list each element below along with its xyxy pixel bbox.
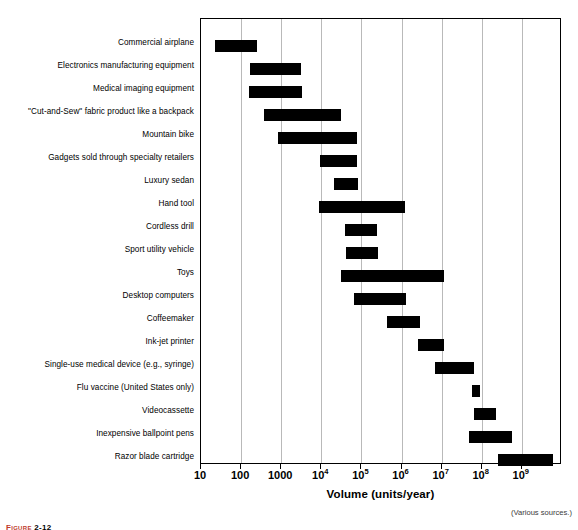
gridline xyxy=(241,19,242,463)
gridline xyxy=(321,19,322,463)
production-volume-range-chart: Commercial airplaneElectronics manufactu… xyxy=(0,0,578,530)
category-label: Mountain bike xyxy=(0,130,194,139)
category-label: Coffeemaker xyxy=(0,314,194,323)
x-tick-label: 109 xyxy=(513,469,529,482)
x-tick-label: 10 xyxy=(194,469,206,482)
category-label-column: Commercial airplaneElectronics manufactu… xyxy=(0,18,194,450)
x-tick-label: 1000 xyxy=(268,469,292,482)
gridline xyxy=(361,19,362,463)
category-label: Hand tool xyxy=(0,199,194,208)
figure-caption: Figure 2-12 xyxy=(6,523,51,530)
x-axis-title: Volume (units/year) xyxy=(200,488,561,500)
x-axis-tick-labels: 101001000104105106107108109 xyxy=(0,469,578,485)
figure-caption-number: 2-12 xyxy=(34,523,51,530)
range-bar xyxy=(435,362,474,374)
range-bar xyxy=(320,155,357,167)
category-label: Medical imaging equipment xyxy=(0,84,194,93)
range-bar xyxy=(354,293,406,305)
x-tick-label: 104 xyxy=(312,469,328,482)
category-label: Ink-jet printer xyxy=(0,337,194,346)
x-tick-label: 100 xyxy=(231,469,249,482)
gridline xyxy=(482,19,483,463)
range-bar xyxy=(474,408,496,420)
range-bar xyxy=(469,431,512,443)
range-bar xyxy=(249,86,302,98)
category-label: Toys xyxy=(0,268,194,277)
range-bar xyxy=(346,247,378,259)
category-label: Cordless drill xyxy=(0,222,194,231)
range-bar xyxy=(418,339,444,351)
category-label: Commercial airplane xyxy=(0,38,194,47)
category-label: Luxury sedan xyxy=(0,176,194,185)
range-bar xyxy=(472,385,480,397)
category-label: Inexpensive ballpoint pens xyxy=(0,429,194,438)
x-tick-label: 106 xyxy=(392,469,408,482)
category-label: Videocassette xyxy=(0,406,194,415)
gridline xyxy=(522,19,523,463)
figure-caption-label: Figure xyxy=(6,523,32,530)
category-label: Single-use medical device (e.g., syringe… xyxy=(0,360,194,369)
gridline xyxy=(402,19,403,463)
range-bar xyxy=(278,132,357,144)
category-label: Sport utility vehicle xyxy=(0,245,194,254)
range-bar xyxy=(250,63,301,75)
category-label: Gadgets sold through specialty retailers xyxy=(0,153,194,162)
category-label: "Cut-and-Sew" fabric product like a back… xyxy=(0,107,194,116)
range-bar xyxy=(319,201,405,213)
category-label: Flu vaccine (United States only) xyxy=(0,383,194,392)
plot-area xyxy=(200,18,561,464)
range-bar xyxy=(387,316,420,328)
range-bar xyxy=(264,109,341,121)
range-bar xyxy=(345,224,377,236)
x-tick-label: 105 xyxy=(352,469,368,482)
range-bar xyxy=(334,178,358,190)
range-bar xyxy=(341,270,444,282)
category-label: Desktop computers xyxy=(0,291,194,300)
x-tick-label: 107 xyxy=(432,469,448,482)
category-label: Razor blade cartridge xyxy=(0,452,194,461)
source-note: (Various sources.) xyxy=(511,508,572,517)
x-tick-label: 108 xyxy=(472,469,488,482)
category-label: Electronics manufacturing equipment xyxy=(0,61,194,70)
range-bar xyxy=(215,40,257,52)
gridline xyxy=(442,19,443,463)
